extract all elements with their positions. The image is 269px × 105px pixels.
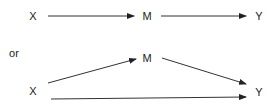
node-y-bottom: Y [255, 86, 262, 98]
node-x-top: X [29, 10, 36, 22]
mediation-diagram [0, 0, 269, 105]
node-m-top: M [142, 10, 151, 22]
arrow-bottom-x-to-m [48, 59, 136, 83]
arrow-bottom-x-to-y [51, 97, 246, 99]
separator-or: or [9, 47, 19, 59]
node-x-bottom: X [29, 85, 36, 97]
node-y-top: Y [255, 10, 262, 22]
arrow-bottom-m-to-y [162, 58, 246, 84]
node-m-bottom: M [142, 52, 151, 64]
